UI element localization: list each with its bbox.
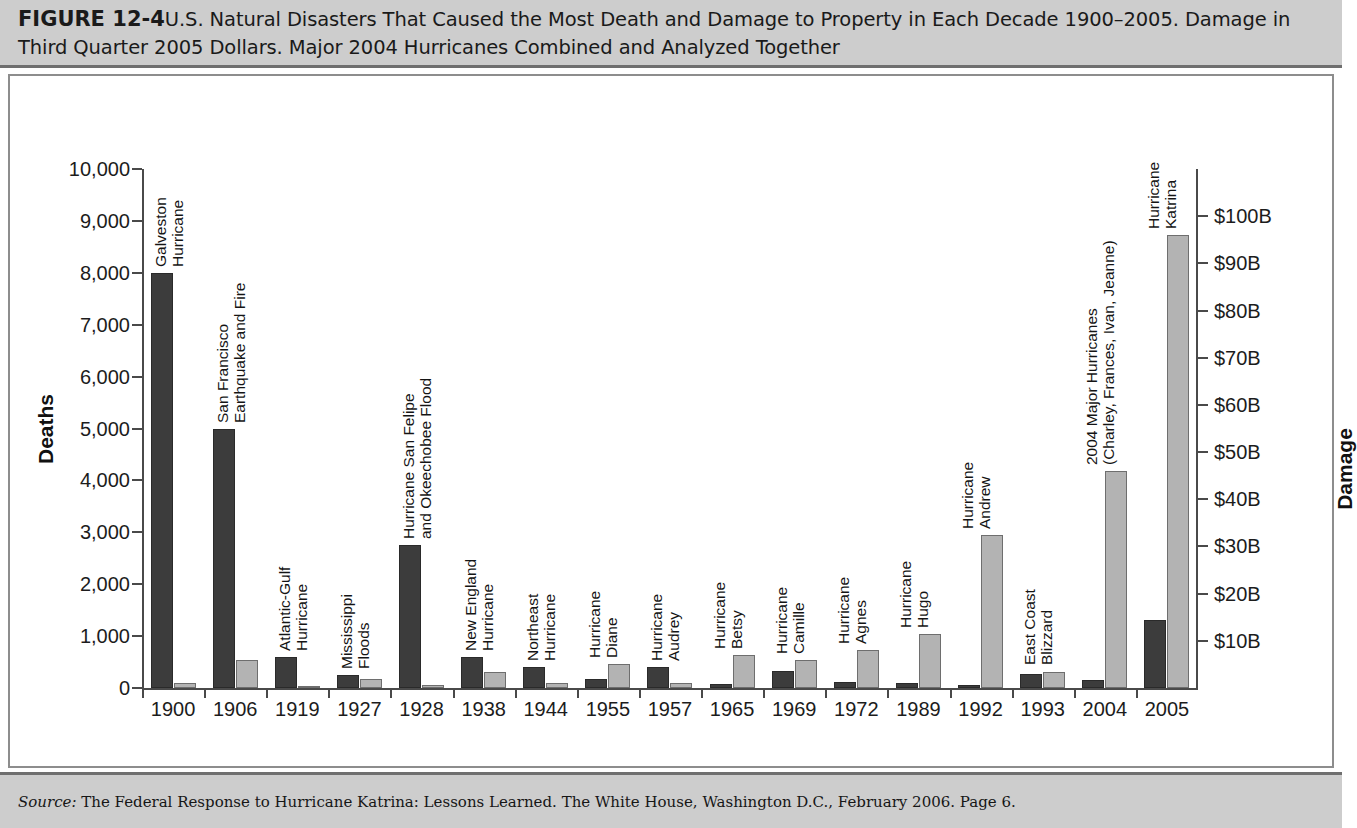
damage-bar: [608, 664, 630, 688]
event-label-line: Northeast: [524, 594, 541, 661]
x-axis-tick-label: 1927: [337, 698, 382, 721]
event-label-line: Blizzard: [1038, 590, 1055, 666]
bar-group: HurricaneAudrey: [639, 169, 701, 688]
event-label-line: Floods: [355, 594, 372, 669]
bar-group: HurricaneAndrew: [950, 169, 1012, 688]
right-axis-tick-label: $50B: [1214, 441, 1261, 464]
bar-group: NortheastHurricane: [515, 169, 577, 688]
damage-bar: [733, 655, 755, 688]
left-axis-title: Deaths: [34, 394, 58, 464]
left-axis-tick: [132, 531, 142, 533]
damage-bar: [1043, 672, 1065, 689]
deaths-bar: [523, 667, 545, 688]
x-axis-tick-label: 1957: [648, 698, 693, 721]
left-axis-tick-label: 9,000: [80, 209, 130, 232]
figure-caption: FIGURE 12-4U.S. Natural Disasters That C…: [18, 5, 1328, 62]
left-axis-tick-label: 10,000: [69, 158, 130, 181]
event-label-line: Atlantic-Gulf: [276, 566, 293, 650]
right-axis-tick: [1198, 310, 1208, 312]
left-axis-tick-label: 2,000: [80, 573, 130, 596]
event-label-line: Agnes: [852, 577, 869, 644]
deaths-bar: [151, 273, 173, 688]
right-axis-tick: [1198, 262, 1208, 264]
event-label-line: Hugo: [914, 561, 931, 628]
event-label-line: 2004 Major Hurricanes: [1083, 240, 1100, 465]
x-axis-tick-label: 1969: [772, 698, 817, 721]
left-axis-tick: [132, 168, 142, 170]
damage-bar: [484, 672, 506, 689]
event-label: HurricaneCamille: [773, 586, 807, 653]
x-axis-tick-label: 1993: [1020, 698, 1065, 721]
event-label-line: New England: [462, 559, 479, 651]
plot-area: Deaths Damage 01,0002,0003,0004,0005,000…: [142, 169, 1198, 688]
left-axis-tick-label: 4,000: [80, 469, 130, 492]
event-label: NortheastHurricane: [524, 594, 558, 661]
bar-group: HurricaneAgnes: [825, 169, 887, 688]
deaths-bar: [461, 657, 483, 688]
left-axis-tick: [132, 376, 142, 378]
event-label: HurricaneBetsy: [711, 582, 745, 649]
x-axis-tick: [453, 688, 455, 698]
right-axis-tick-label: $10B: [1214, 629, 1261, 652]
event-label-line: (Charley, Frances, Ivan, Jeanne): [1100, 240, 1117, 465]
left-axis-tick-label: 1,000: [80, 625, 130, 648]
bar-group: HurricaneHugo: [887, 169, 949, 688]
bar-group: HurricaneBetsy: [701, 169, 763, 688]
right-axis-tick: [1198, 545, 1208, 547]
event-label-line: Earthquake and Fire: [231, 282, 248, 422]
x-axis-tick-label: 1919: [275, 698, 320, 721]
damage-bar: [1105, 471, 1127, 688]
left-axis-tick: [132, 272, 142, 274]
left-axis-tick-label: 5,000: [80, 417, 130, 440]
event-label: HurricaneHugo: [897, 561, 931, 628]
bar-group: New EnglandHurricane: [453, 169, 515, 688]
x-axis-tick-label: 1955: [586, 698, 631, 721]
damage-bar: [422, 685, 444, 688]
deaths-bar: [1020, 674, 1042, 688]
event-label-line: Hurricane San Felipe: [400, 378, 417, 539]
event-label: Hurricane San Felipeand Okeechobee Flood: [400, 378, 434, 539]
event-label: HurricaneDiane: [586, 591, 620, 658]
x-axis-tick: [950, 688, 952, 698]
x-axis-tick: [1136, 688, 1138, 698]
event-label-line: Mississippi: [338, 594, 355, 669]
right-axis-tick: [1198, 357, 1208, 359]
chart-frame: Deaths Damage 01,0002,0003,0004,0005,000…: [8, 74, 1334, 768]
deaths-bar: [1144, 620, 1166, 689]
event-label-line: Galveston: [152, 197, 169, 267]
source-label: Source:: [18, 793, 76, 811]
bar-group: Atlantic-GulfHurricane: [266, 169, 328, 688]
left-axis-tick: [132, 428, 142, 430]
deaths-bar: [710, 684, 732, 688]
x-axis-tick-label: 1938: [461, 698, 506, 721]
event-label: MississippiFloods: [338, 594, 372, 669]
figure-footer: Source: The Federal Response to Hurrican…: [0, 772, 1342, 828]
bar-group: HurricaneCamille: [763, 169, 825, 688]
x-axis-tick: [515, 688, 517, 698]
left-axis-tick-label: 3,000: [80, 521, 130, 544]
bar-group: HurricaneDiane: [577, 169, 639, 688]
x-axis-tick: [763, 688, 765, 698]
event-label: HurricaneKatrina: [1145, 162, 1179, 229]
damage-bar: [174, 683, 196, 688]
x-axis-tick: [204, 688, 206, 698]
right-axis-tick-label: $60B: [1214, 393, 1261, 416]
event-label: 2004 Major Hurricanes(Charley, Frances, …: [1083, 240, 1117, 465]
left-axis-tick-label: 6,000: [80, 365, 130, 388]
event-label-line: Hurricane: [586, 591, 603, 658]
bar-group: 2004 Major Hurricanes(Charley, Frances, …: [1074, 169, 1136, 688]
event-label-line: Hurricane: [293, 566, 310, 650]
x-axis-tick: [887, 688, 889, 698]
x-axis-baseline: [142, 688, 1198, 690]
x-axis-tick-label: 1992: [958, 698, 1003, 721]
left-axis-tick: [132, 635, 142, 637]
x-axis-tick: [701, 688, 703, 698]
event-label-line: Hurricane: [835, 577, 852, 644]
left-axis-tick: [132, 687, 142, 689]
right-axis-tick: [1198, 593, 1208, 595]
event-label-line: Diane: [603, 591, 620, 658]
event-label-line: Hurricane: [1145, 162, 1162, 229]
event-label-line: Andrew: [976, 461, 993, 528]
event-label: San FranciscoEarthquake and Fire: [214, 282, 248, 422]
